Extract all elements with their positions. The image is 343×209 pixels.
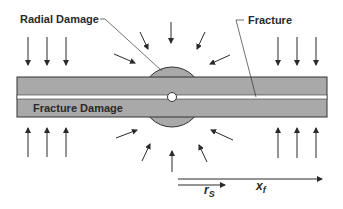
xf-label: xf: [255, 179, 267, 195]
fracture-damage-diagram: Radial Damage Fracture Fracture Damage: [0, 0, 343, 209]
fracture-label: Fracture: [248, 14, 292, 26]
radial-damage-leader: [100, 19, 162, 71]
borehole-icon: [168, 93, 177, 102]
compression-arrows-top: [28, 37, 316, 65]
fracture-damage-label: Fracture Damage: [33, 102, 123, 114]
radial-damage-label: Radial Damage: [20, 13, 99, 25]
